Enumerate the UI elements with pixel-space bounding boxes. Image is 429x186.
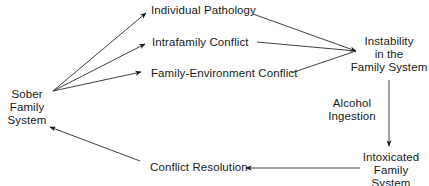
node-family-environment-conflict: Family-Environment Conflict — [151, 67, 298, 80]
family-system-diagram: Sober Family System Individual Pathology… — [0, 0, 429, 186]
node-intrafamily-conflict: Intrafamily Conflict — [152, 36, 249, 49]
edge-label-alcohol-ingestion: Alcohol Ingestion — [325, 97, 379, 123]
node-sober-family-system: Sober Family System — [4, 88, 50, 127]
node-line: Family — [361, 164, 421, 177]
arrow-sober-to-individual-pathology — [53, 13, 146, 91]
arrow-sober-to-family-environment-conflict — [53, 72, 141, 91]
node-line: Family — [4, 101, 50, 114]
line-individual-pathology-to-instability — [253, 14, 356, 51]
line-intrafamily-conflict-to-instability — [257, 42, 356, 51]
node-line: Instability — [349, 35, 429, 48]
node-line: in the — [349, 48, 429, 61]
edge-label-line: Ingestion — [325, 110, 379, 123]
edge-label-line: Alcohol — [325, 97, 379, 110]
node-line: Family System — [349, 61, 429, 74]
node-line: System — [361, 177, 421, 186]
arrow-conflict-resolution-to-sober — [50, 127, 140, 161]
arrow-sober-to-intrafamily-conflict — [53, 44, 145, 91]
node-line: Sober — [4, 88, 50, 101]
node-intoxicated-family-system: Intoxicated Family System — [361, 151, 421, 186]
node-individual-pathology: Individual Pathology — [151, 4, 256, 17]
line-family-environment-conflict-to-instability — [291, 51, 356, 73]
node-line: System — [4, 114, 50, 127]
node-conflict-resolution: Conflict Resolution — [150, 161, 248, 174]
node-instability-in-family-system: Instability in the Family System — [349, 35, 429, 74]
node-line: Intoxicated — [361, 151, 421, 164]
